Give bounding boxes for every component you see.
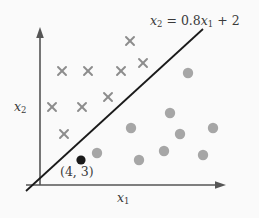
x-axis-arrowhead <box>215 181 226 189</box>
marker-x <box>104 93 112 101</box>
y-axis-label: x2 <box>14 101 26 115</box>
boundary-equation-label: x2 = 0.8x1 + 2 <box>150 15 240 29</box>
marker-x <box>84 67 92 75</box>
eq-intercept: 2 <box>232 13 240 28</box>
marker-x <box>126 37 134 45</box>
x-axis-label-sub: 1 <box>124 196 129 206</box>
marker-circle <box>198 150 208 160</box>
y-axis-label-var: x <box>14 99 21 114</box>
eq-plus: + <box>213 13 231 28</box>
eq-slope: 0.8 <box>181 13 201 28</box>
eq-lhs-var: x <box>150 13 157 28</box>
marker-x <box>117 67 125 75</box>
decision-boundary-line <box>26 29 203 191</box>
class-x-markers <box>48 37 147 138</box>
marker-x <box>58 67 66 75</box>
scatter-plot-figure: x2 = 0.8x1 + 2 x2 x1 (4, 3) <box>0 0 259 218</box>
marker-circle <box>92 148 102 158</box>
x-axis-label-var: x <box>117 190 124 205</box>
class-circle-markers <box>92 68 218 165</box>
marker-circle <box>159 146 169 156</box>
y-axis-label-sub: 2 <box>21 105 26 115</box>
marker-circle <box>126 123 136 133</box>
highlighted-point-label: (4, 3) <box>60 166 94 179</box>
eq-equals: = <box>162 13 180 28</box>
marker-x <box>139 59 147 67</box>
marker-circle <box>183 68 193 78</box>
eq-rhs-var: x <box>201 13 208 28</box>
marker-x <box>60 130 68 138</box>
plot-canvas <box>0 0 259 218</box>
x-axis-label: x1 <box>117 192 129 206</box>
y-axis-arrowhead <box>36 27 44 38</box>
marker-circle <box>208 123 218 133</box>
marker-x <box>78 103 86 111</box>
marker-circle <box>175 129 185 139</box>
marker-x <box>48 103 56 111</box>
marker-circle <box>165 108 175 118</box>
marker-circle <box>134 155 144 165</box>
